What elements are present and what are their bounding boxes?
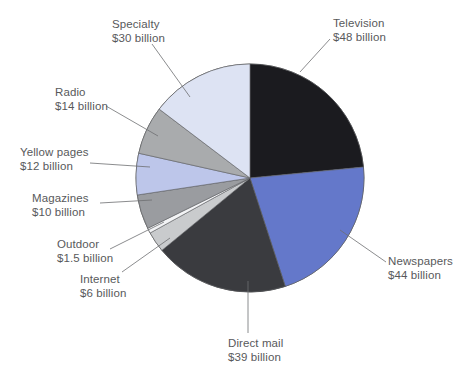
slice-label-outdoor: Outdoor$1.5 billion [57, 238, 113, 265]
pie-chart-figure: Television$48 billionNewspapers$44 billi… [0, 0, 475, 376]
slice-label-value: $6 billion [80, 287, 126, 301]
slice-label-value: $39 billion [228, 351, 283, 365]
pie-slices-group [136, 64, 364, 292]
slice-label-value: $10 billion [32, 206, 89, 220]
leader-line-television [300, 39, 330, 72]
slice-label-name: Newspapers [388, 255, 453, 269]
slice-label-value: $48 billion [333, 31, 386, 45]
leader-line-specialty [152, 44, 190, 97]
slice-label-value: $30 billion [112, 32, 165, 46]
slice-label-value: $44 billion [388, 269, 453, 283]
slice-label-value: $1.5 billion [57, 252, 113, 266]
pie-slice-television[interactable] [250, 64, 363, 178]
slice-label-television: Television$48 billion [333, 17, 386, 44]
slice-label-newspapers: Newspapers$44 billion [388, 255, 453, 282]
slice-label-internet: Internet$6 billion [80, 273, 126, 300]
slice-label-direct-mail: Direct mail$39 billion [228, 337, 283, 364]
slice-label-radio: Radio$14 billion [55, 86, 108, 113]
slice-label-name: Direct mail [228, 337, 283, 351]
slice-label-name: Specialty [112, 18, 165, 32]
slice-label-name: Television [333, 17, 386, 31]
slice-label-name: Radio [55, 86, 108, 100]
slice-label-magazines: Magazines$10 billion [32, 192, 89, 219]
slice-label-name: Yellow pages [20, 146, 89, 160]
advertising-spending-pie-chart [0, 0, 475, 376]
leader-line-radio [106, 106, 158, 136]
slice-label-name: Magazines [32, 192, 89, 206]
slice-label-name: Internet [80, 273, 126, 287]
slice-label-value: $14 billion [55, 100, 108, 114]
slice-label-name: Outdoor [57, 238, 113, 252]
slice-label-specialty: Specialty$30 billion [112, 18, 165, 45]
slice-label-value: $12 billion [20, 160, 89, 174]
slice-label-yellow-pages: Yellow pages$12 billion [20, 146, 89, 173]
leader-line-newspapers [340, 230, 386, 262]
leader-line-internet [122, 238, 170, 272]
